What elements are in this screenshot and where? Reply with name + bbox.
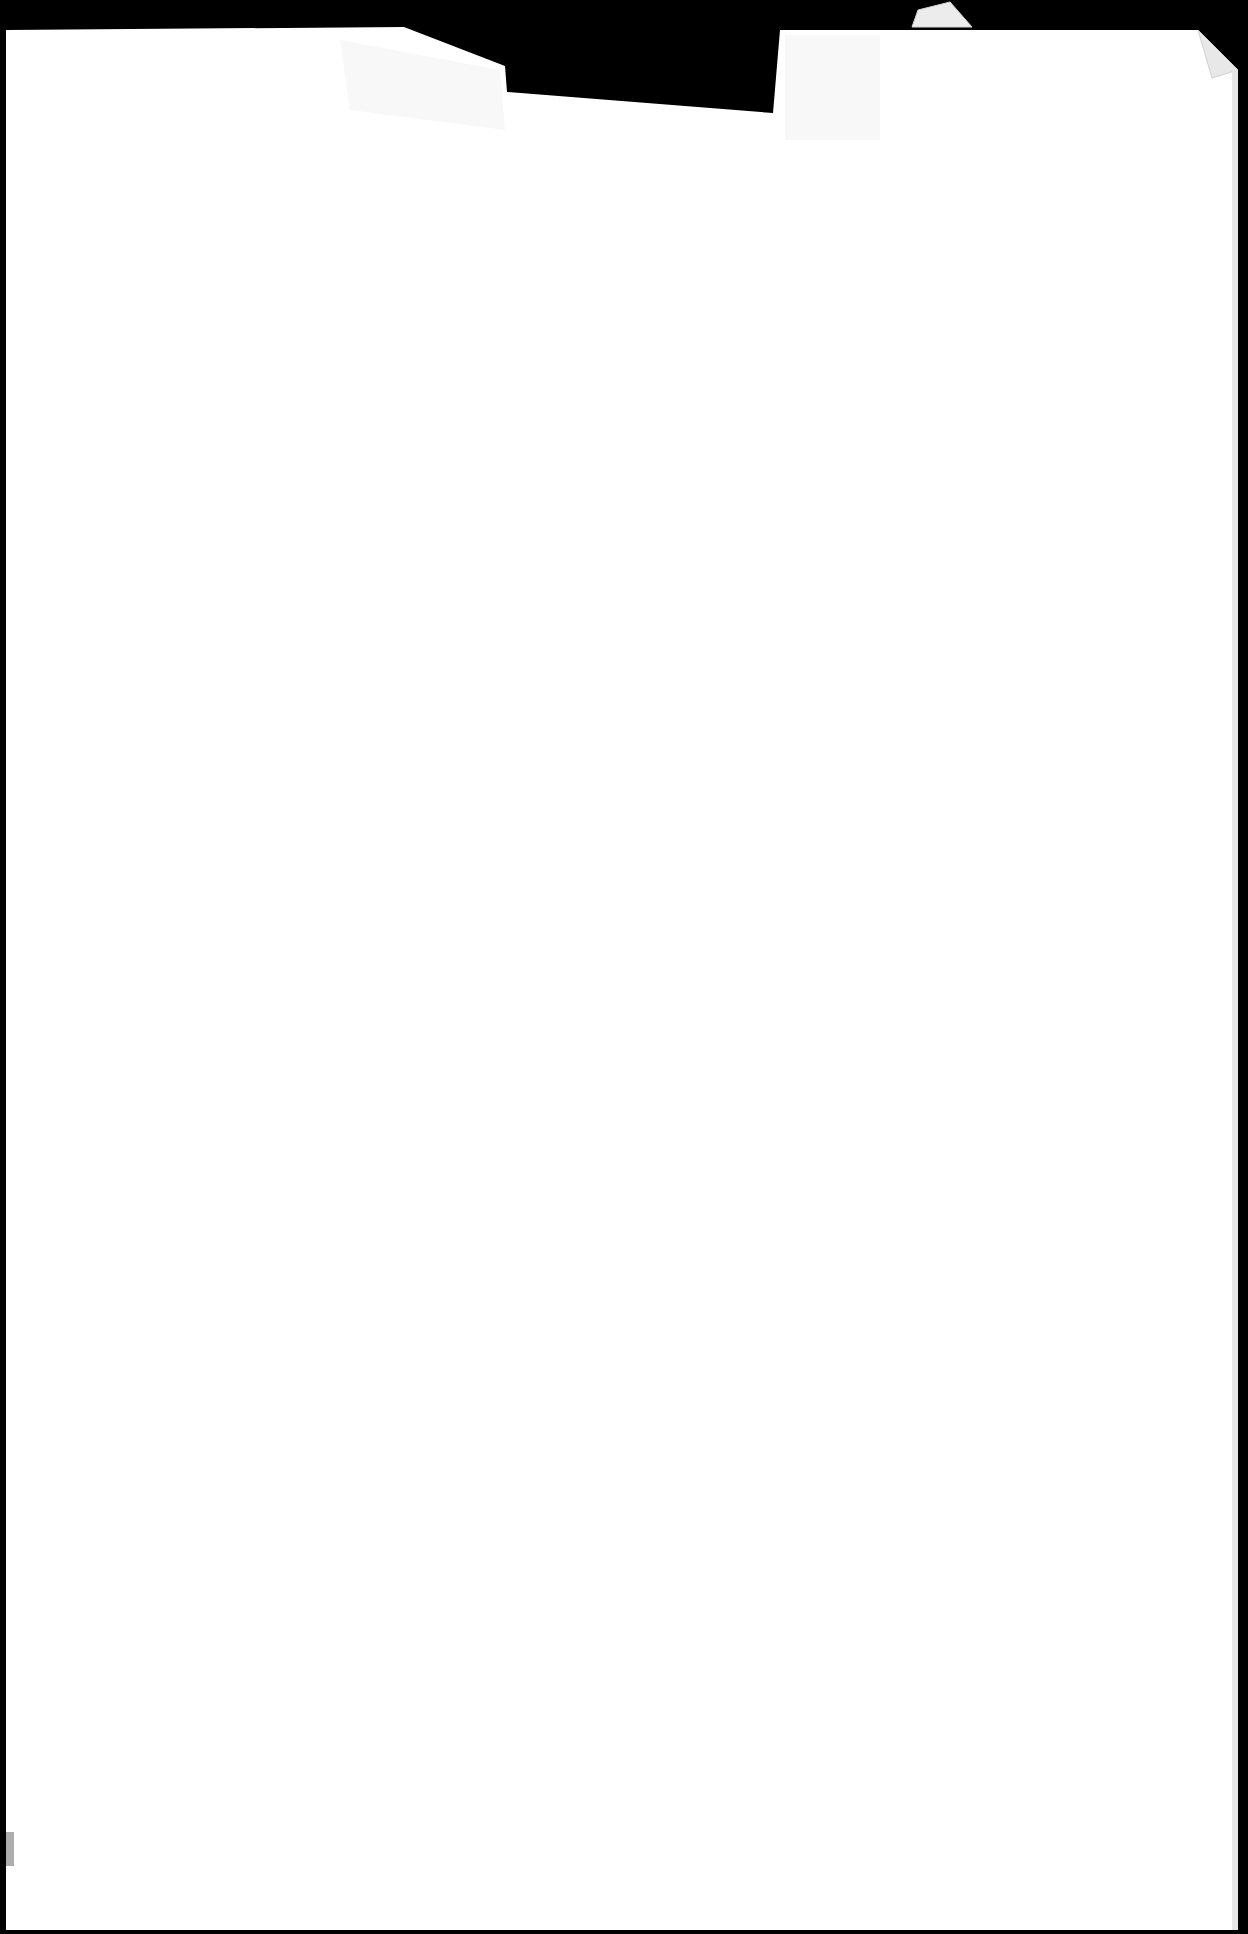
edge-shadow bbox=[1232, 70, 1238, 1930]
edge-mark bbox=[6, 1832, 14, 1866]
paper-shading bbox=[785, 35, 880, 140]
scanned-page bbox=[0, 0, 1248, 1934]
paper-sheet bbox=[6, 27, 1238, 1930]
